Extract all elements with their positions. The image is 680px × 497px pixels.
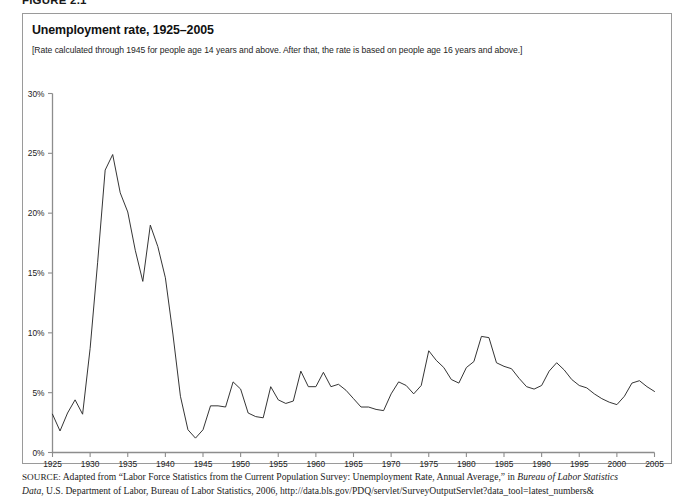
figure-border-box <box>22 13 672 464</box>
figure-number-label: FIGURE 2.1 <box>22 0 87 6</box>
source-text-b: , U.S. Department of Labor, Bureau of La… <box>41 485 594 496</box>
source-italic-2: Data <box>22 485 41 496</box>
figure-page: FIGURE 2.1 Unemployment rate, 1925–2005 … <box>0 0 680 497</box>
chart-title: Unemployment rate, 1925–2005 <box>32 23 214 37</box>
chart-subtitle: [Rate calculated through 1945 for people… <box>32 45 522 55</box>
source-note: SOURCE: Adapted from “Labor Force Statis… <box>22 470 670 497</box>
source-line-2: Data, U.S. Department of Labor, Bureau o… <box>22 484 670 497</box>
source-text-a: Adapted from “Labor Force Statistics fro… <box>61 471 518 482</box>
source-line-1: SOURCE: Adapted from “Labor Force Statis… <box>22 470 670 484</box>
source-italic-1: Bureau of Labor Statistics <box>517 471 618 482</box>
source-kicker: SOURCE: <box>22 472 61 482</box>
